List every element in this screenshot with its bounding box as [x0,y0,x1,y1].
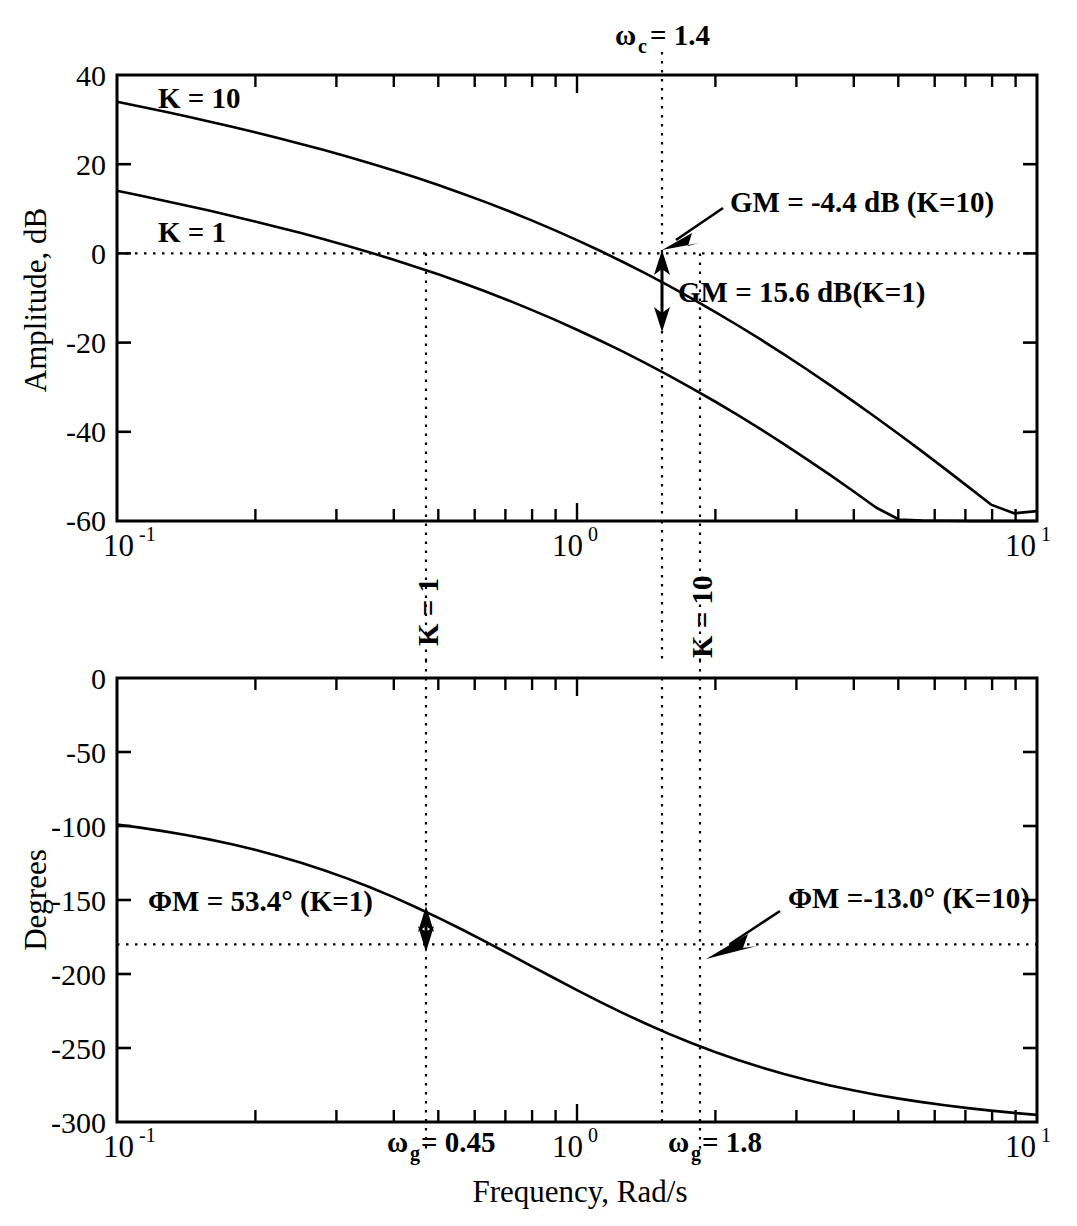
phase-ytick-minus200: -200 [51,958,106,991]
omega-g-18-symbol: ω [668,1126,689,1158]
phase-ytick-minus250: -250 [51,1032,106,1065]
mag-ytick-minus60: -60 [66,504,106,537]
mag-xtick-exp-right: 1 [1041,523,1051,545]
phase-xtick-base-right: 10 [1005,1129,1036,1164]
gm-k1-text: GM = 15.6 dB(K=1) [678,276,925,309]
mag-xtick-base-left: 10 [103,528,134,563]
omega-c-subscript: c [638,35,647,57]
omega-g-045-subscript: g [410,1142,420,1165]
figure-background [0,0,1077,1226]
mag-ytick-40: 40 [76,59,106,92]
phase-xtick-exp-right: 1 [1041,1124,1051,1146]
omega-g-045-symbol: ω [387,1126,408,1158]
phase-xtick-exp-left: -1 [139,1124,156,1146]
magnitude-y-axis-title: Amplitude, dB [18,208,53,392]
phase-xtick-base-mid: 10 [552,1129,583,1164]
omega-g-045-value: = 0.45 [421,1126,496,1158]
phase-ytick-minus50: -50 [66,736,106,769]
omega-g-18-subscript: g [691,1142,701,1165]
phase-ytick-minus300: -300 [51,1106,106,1139]
phase-xtick-exp-mid: 0 [588,1124,598,1146]
omega-c-symbol: ω [615,19,636,51]
x-axis-title: Frequency, Rad/s [473,1174,688,1209]
mag-ytick-0: 0 [91,237,106,270]
mag-xtick-base-mid: 10 [552,528,583,563]
omega-g-18-value: = 1.8 [702,1126,762,1158]
omega-c-value: = 1.4 [650,19,710,51]
phase-ytick-minus150: -150 [51,884,106,917]
bode-plot-figure: K = 10 K = 1 40 20 0 -20 -40 -60 Amplitu… [0,0,1077,1226]
mag-ytick-20: 20 [76,148,106,181]
mag-xtick-exp-mid: 0 [588,523,598,545]
phase-ytick-minus100: -100 [51,810,106,843]
rotated-label-k10: K = 10 [686,575,718,658]
phase-y-axis-title: Degrees [18,849,53,951]
mag-ytick-minus20: -20 [66,326,106,359]
phase-xtick-base-left: 10 [103,1129,134,1164]
mag-xtick-exp-left: -1 [139,523,156,545]
mag-xtick-base-right: 10 [1005,528,1036,563]
mag-ytick-minus40: -40 [66,415,106,448]
pm-k10-text: ΦM =-13.0° (K=10) [788,882,1030,915]
curve-label-k10: K = 10 [158,82,241,114]
gm-k10-text: GM = -4.4 dB (K=10) [730,186,994,219]
curve-label-k1: K = 1 [158,216,226,248]
pm-k1-text: ΦM = 53.4° (K=1) [148,885,373,918]
rotated-label-k1: K = 1 [412,578,444,646]
phase-ytick-0: 0 [91,662,106,695]
